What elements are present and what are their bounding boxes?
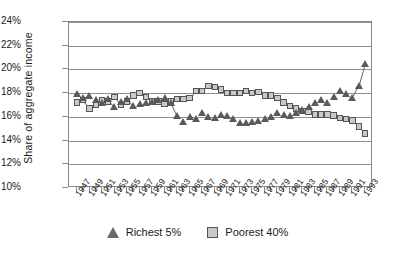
data-point-triangle (348, 94, 356, 101)
y-tick-label: 24% (0, 16, 21, 26)
y-tick-label: 16% (0, 111, 21, 121)
triangle-icon (107, 227, 119, 238)
data-point-triangle (104, 95, 112, 102)
legend-item-poorest[interactable]: Poorest 40% (207, 226, 288, 238)
data-point-triangle (123, 95, 131, 102)
square-icon (207, 227, 218, 238)
plot-area (68, 21, 372, 187)
y-tick-label: 20% (0, 63, 21, 73)
income-share-chart: Share of aggregate income 24%22%20%18%16… (0, 0, 395, 257)
gridline (69, 46, 371, 47)
gridline (69, 22, 371, 23)
y-tick-label: 12% (0, 158, 21, 168)
data-point-triangle (167, 99, 175, 106)
gridline (69, 69, 371, 70)
gridline (69, 164, 371, 165)
y-tick-label: 22% (0, 40, 21, 50)
gridline (69, 141, 371, 142)
data-point-triangle (361, 60, 369, 67)
y-tick-mark (62, 187, 68, 188)
data-point-square (186, 95, 192, 101)
legend-item-richest[interactable]: Richest 5% (107, 226, 182, 238)
chart-legend: Richest 5% Poorest 40% (0, 226, 395, 238)
y-tick-label: 10% (0, 182, 21, 192)
y-axis-title: Share of aggregate income (22, 13, 34, 183)
data-point-square (356, 123, 362, 129)
legend-label-richest: Richest 5% (126, 226, 182, 238)
legend-label-poorest: Poorest 40% (225, 226, 288, 238)
data-point-triangle (355, 82, 363, 89)
data-point-square (362, 130, 368, 136)
y-tick-label: 18% (0, 87, 21, 97)
y-tick-label: 14% (0, 135, 21, 145)
